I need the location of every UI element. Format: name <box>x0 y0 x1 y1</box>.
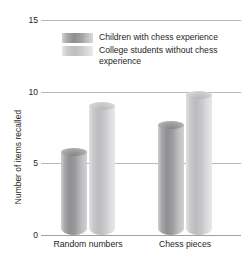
bar-random-numbers-children[interactable] <box>61 152 87 235</box>
bar-chess-pieces-children[interactable] <box>158 125 184 235</box>
x-tick-label-chess-pieces: Chess pieces <box>159 239 211 249</box>
cropped-caption-sliver <box>6 258 102 263</box>
chart-figure: Number of items recalled 15 10 5 0 <box>0 0 241 264</box>
y-tick-label-10: 10 <box>28 87 38 96</box>
x-tick-label-random-numbers: Random numbers <box>53 239 122 249</box>
bar-body <box>61 152 87 235</box>
bar-cap-ellipse <box>61 148 87 156</box>
chart-legend: Children with chess experience College s… <box>62 32 240 68</box>
y-tick-label-0: 0 <box>33 231 38 240</box>
bar-body <box>158 125 184 235</box>
bar-body <box>186 95 212 235</box>
axis-baseline-0 <box>41 235 241 236</box>
legend-label-college: College students without chess experienc… <box>99 45 237 66</box>
bar-body <box>89 106 115 235</box>
legend-item-college[interactable]: College students without chess experienc… <box>62 45 240 66</box>
legend-swatch-icon-children <box>62 33 93 43</box>
bar-cap-ellipse <box>158 121 184 129</box>
y-tick-label-5: 5 <box>33 159 38 168</box>
legend-label-children: Children with chess experience <box>99 32 218 43</box>
gridline-15 <box>41 20 241 21</box>
bar-cap-ellipse <box>186 91 212 99</box>
bar-random-numbers-college[interactable] <box>89 106 115 235</box>
legend-item-children[interactable]: Children with chess experience <box>62 32 240 43</box>
y-tick-label-15: 15 <box>28 16 38 25</box>
bar-cap-ellipse <box>89 102 115 110</box>
legend-swatch-icon-college <box>62 46 93 56</box>
y-axis-title: Number of items recalled <box>13 82 23 232</box>
bar-chess-pieces-college[interactable] <box>186 95 212 235</box>
